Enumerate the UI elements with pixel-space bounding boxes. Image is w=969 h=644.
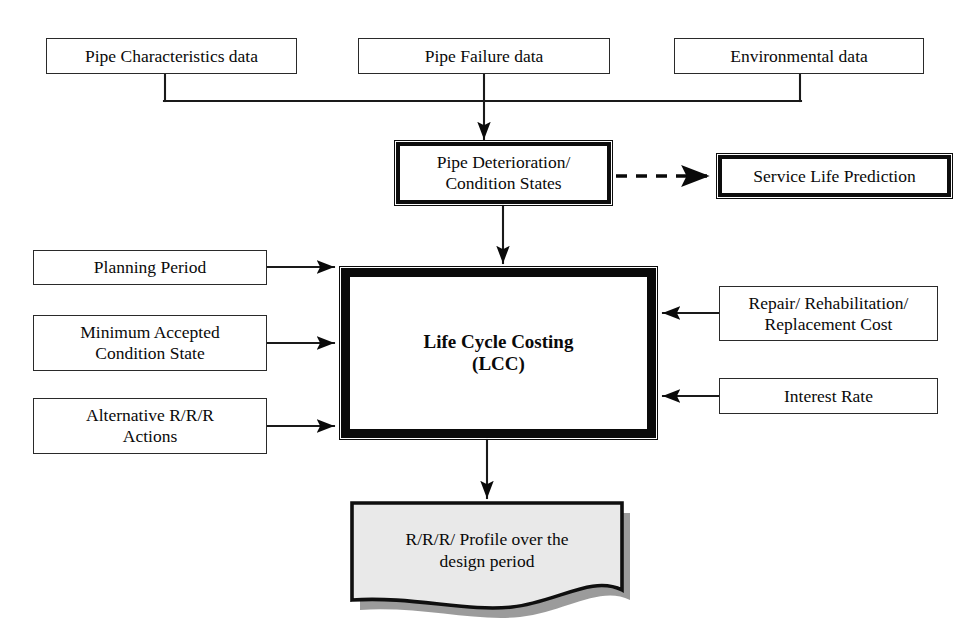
flowchart-canvas: Pipe Characteristics data Pipe Failure d… — [0, 0, 969, 644]
node-label: Repair/ Rehabilitation/ Replacement Cost — [743, 293, 915, 334]
node-pipe-characteristics-data: Pipe Characteristics data — [46, 38, 297, 74]
node-label: Planning Period — [88, 257, 212, 278]
node-rrr-profile-output: R/R/R/ Profile over the design period — [352, 503, 622, 599]
node-label: Pipe Characteristics data — [79, 46, 264, 67]
node-label: R/R/R/ Profile over the design period — [400, 529, 575, 573]
node-repair-rehabilitation-replacement-cost: Repair/ Rehabilitation/ Replacement Cost — [719, 286, 938, 341]
node-minimum-accepted-condition-state: Minimum Accepted Condition State — [33, 315, 267, 371]
node-interest-rate: Interest Rate — [719, 378, 938, 414]
node-planning-period: Planning Period — [33, 250, 267, 285]
node-label: Environmental data — [724, 46, 874, 67]
node-label: Minimum Accepted Condition State — [74, 322, 226, 363]
node-environmental-data: Environmental data — [674, 38, 924, 74]
node-label: Alternative R/R/R Actions — [80, 405, 220, 446]
node-pipe-failure-data: Pipe Failure data — [358, 38, 610, 74]
node-pipe-deterioration-condition-states: Pipe Deterioration/ Condition States — [396, 142, 611, 204]
node-label: Interest Rate — [778, 386, 879, 407]
node-label: Pipe Deterioration/ Condition States — [431, 152, 577, 193]
node-label: Pipe Failure data — [419, 46, 550, 67]
node-label: Life Cycle Costing (LCC) — [418, 331, 580, 376]
node-life-cycle-costing: Life Cycle Costing (LCC) — [341, 268, 656, 438]
node-service-life-prediction: Service Life Prediction — [718, 155, 951, 197]
node-label: Service Life Prediction — [747, 166, 921, 187]
node-alternative-rrr-actions: Alternative R/R/R Actions — [33, 398, 267, 454]
